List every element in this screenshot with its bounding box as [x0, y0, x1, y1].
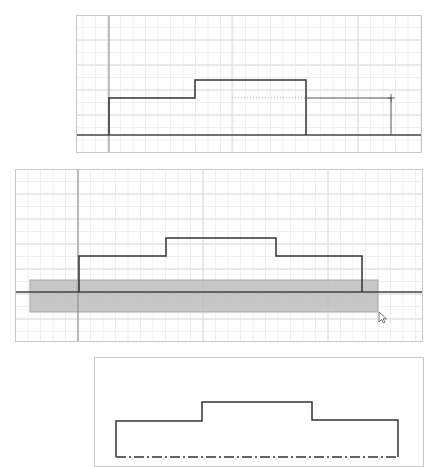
panel-background: [94, 357, 424, 467]
panel-step-3-result: [94, 357, 424, 467]
panel-content: [71, 15, 423, 153]
window-selection-box[interactable]: [30, 280, 378, 312]
panel-content: [3, 169, 423, 342]
panel-step-2-window-selection: [3, 169, 423, 342]
panel-content: [94, 357, 424, 467]
cad-sketch-figure: [0, 0, 447, 467]
crosshair-dot: [390, 97, 392, 99]
panel-step-1-drawing: [71, 15, 423, 153]
